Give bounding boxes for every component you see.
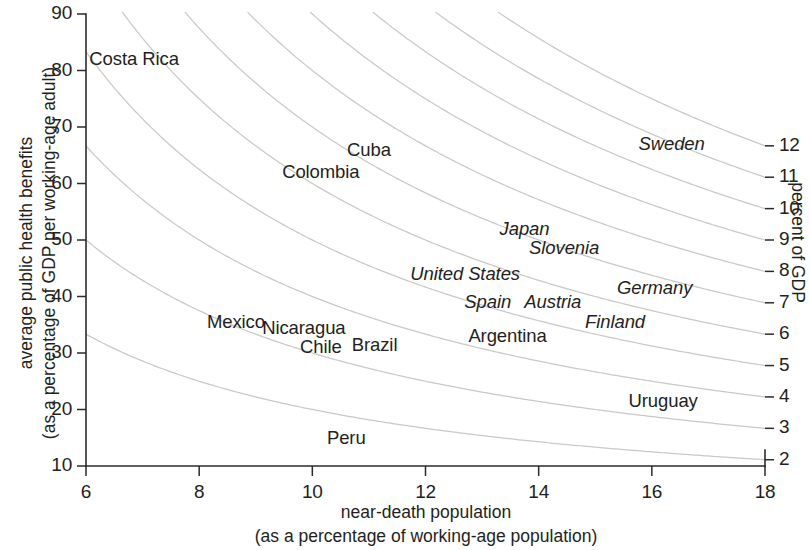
right-tick-label-2: 2 (779, 448, 810, 470)
country-label-costa-rica: Costa Rica (89, 48, 178, 70)
y-axis-title-line1: average public health benefits (15, 23, 38, 483)
y-axis-title-line2: (as a percentage of GDP per working-age … (38, 23, 61, 483)
country-label-sweden: Sweden (638, 133, 704, 155)
country-label-japan: Japan (500, 218, 550, 240)
chart-canvas: 102030405060708090 681012141618 23456789… (0, 0, 810, 550)
country-label-austria: Austria (524, 291, 581, 313)
country-label-germany: Germany (617, 277, 692, 299)
country-label-slovenia: Slovenia (529, 237, 599, 259)
y-axis-title: average public health benefits (as a per… (15, 23, 61, 483)
country-label-spain: Spain (464, 291, 511, 313)
country-label-mexico: Mexico (207, 311, 265, 333)
y-tick-label-90: 90 (28, 2, 72, 24)
country-label-peru: Peru (327, 427, 366, 449)
x-axis-title: near-death population (as a percentage o… (86, 500, 766, 548)
iso-gdp-curve-10 (373, 12, 765, 208)
country-label-chile: Chile (300, 336, 342, 358)
iso-gdp-curve-9 (311, 12, 765, 240)
country-label-finland: Finland (585, 311, 645, 333)
iso-gdp-curve-11 (436, 12, 765, 177)
country-label-uruguay: Uruguay (629, 390, 698, 412)
country-label-cuba: Cuba (347, 139, 391, 161)
x-axis-title-line2: (as a percentage of working-age populati… (86, 524, 766, 548)
right-tick-label-4: 4 (779, 385, 810, 407)
right-axis-title-text: percent of GDP (787, 153, 808, 333)
right-tick-label-3: 3 (779, 416, 810, 438)
country-label-brazil: Brazil (352, 334, 398, 356)
chart-plot-svg (0, 0, 810, 550)
country-label-nicaragua: Nicaragua (262, 317, 345, 339)
country-label-colombia: Colombia (282, 161, 359, 183)
right-tick-label-5: 5 (779, 354, 810, 376)
country-label-united-states: United States (410, 263, 520, 285)
x-axis-title-line1: near-death population (86, 500, 766, 524)
country-label-argentina: Argentina (468, 325, 546, 347)
right-axis-title: percent of GDP (787, 153, 808, 333)
